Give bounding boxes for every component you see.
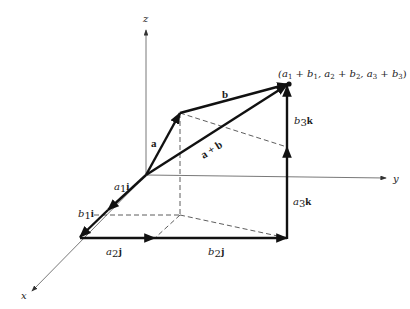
vector-b	[180, 84, 288, 113]
endpoint-dot	[286, 81, 291, 86]
vector-diagram: z y x a b a + b a1i b1i a2j b2j a3k	[0, 0, 410, 309]
dashed-a2j-connector	[155, 215, 180, 238]
x-axis-label: x	[21, 290, 27, 301]
y-axis-label: y	[392, 173, 399, 184]
label-a3k: a3k	[293, 195, 312, 209]
label-b3k: b3k	[294, 114, 314, 128]
label-a-plus-b: a + b	[198, 138, 224, 161]
vector-a-plus-b	[146, 85, 287, 175]
main-vectors	[146, 81, 292, 175]
label-b2j: b2j	[208, 245, 224, 259]
label-a1i: a1i	[114, 180, 129, 194]
endpoint-coordinates-label: (a1 + b1, a2 + b2, a3 + b3)	[278, 68, 407, 81]
y-axis	[146, 175, 386, 178]
label-a: a	[151, 137, 157, 149]
x-axis	[32, 175, 146, 291]
dashed-b2j-connector	[180, 215, 287, 238]
label-b: b	[222, 88, 228, 100]
z-axis-label: z	[142, 13, 149, 24]
label-b1i: b1i	[78, 207, 94, 221]
label-a2j: a2j	[106, 245, 122, 259]
vector-labels: a b a + b	[151, 88, 228, 161]
